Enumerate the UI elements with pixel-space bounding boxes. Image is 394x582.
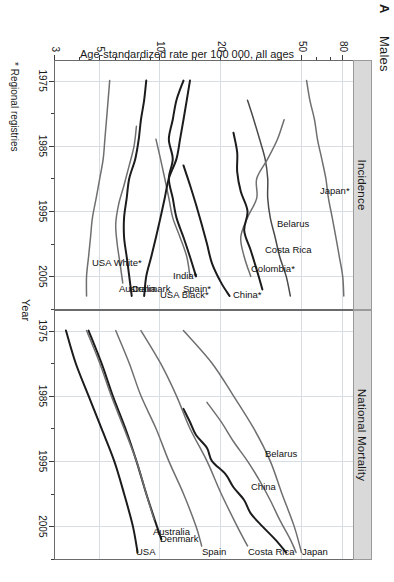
y-axis-tick-label: 50: [296, 41, 307, 52]
series-label: USA White*: [92, 257, 142, 268]
x-axis-title: Year: [20, 60, 32, 560]
series-label: Australia: [153, 526, 190, 537]
footnote: * Regional registries: [9, 62, 20, 152]
x-axis-minor-tick: [51, 178, 54, 179]
y-axis-tick: [301, 55, 302, 60]
series-label: Spain: [202, 546, 226, 557]
y-axis-minor-tick: [115, 57, 116, 60]
series-label: USA: [136, 546, 156, 557]
series-line: [144, 81, 190, 296]
y-axis-tick: [99, 55, 100, 60]
panel-plot-incidence: Japan*BelarusCosta RicaColombia*China*In…: [54, 60, 353, 310]
series-label: Costa Rica: [265, 244, 311, 255]
x-axis-tick-label: 1985: [37, 135, 48, 157]
series-label: India*: [173, 270, 197, 281]
x-axis-tick-label: 1975: [37, 69, 48, 91]
panel-national-mortality: National Mortality JapanChinaBelarusCost…: [54, 310, 372, 560]
x-axis-tick: [49, 81, 54, 82]
y-axis-tick: [160, 55, 161, 60]
x-axis-tick: [49, 146, 54, 147]
x-axis-minor-tick: [51, 113, 54, 114]
panel-strip-label: Incidence: [357, 159, 369, 210]
y-axis-minor-tick: [330, 57, 331, 60]
y-axis: Age-standardized rate per 100 000, all a…: [54, 22, 353, 60]
x-axis-tick-label: 1975: [37, 319, 48, 341]
series-line: [169, 81, 196, 277]
y-axis-minor-tick: [79, 57, 80, 60]
x-axis-tick-label: 1995: [37, 450, 48, 472]
y-axis-minor-tick: [195, 57, 196, 60]
y-axis-minor-tick: [281, 57, 282, 60]
panel-plot-mortality: JapanChinaBelarusCosta RicaSpainDenmarkA…: [54, 310, 353, 560]
series-label: Belarus: [277, 218, 309, 229]
plot-area: Incidence Japan*BelarusCosta RicaColombi…: [54, 60, 372, 560]
y-axis-tick-label: 5: [94, 46, 105, 52]
series-line: [87, 331, 155, 520]
series-label: China: [251, 481, 276, 492]
y-axis-tick: [220, 55, 221, 60]
series-lines-mortality: [55, 311, 353, 559]
y-axis-tick-label: 10: [155, 41, 166, 52]
y-axis-tick-label: 80: [337, 41, 348, 52]
x-axis-minor-tick: [51, 428, 54, 429]
y-axis-tick: [54, 55, 55, 60]
series-label: Colombia*: [251, 263, 295, 274]
panel-strip-mortality: National Mortality: [353, 310, 372, 560]
y-axis-tick-label: 3: [50, 46, 61, 52]
y-axis-minor-tick: [256, 57, 257, 60]
x-axis-minor-tick: [51, 309, 54, 310]
y-axis-tick: [342, 55, 343, 60]
x-axis-minor-tick: [51, 494, 54, 495]
x-axis-tick: [49, 461, 54, 462]
series-lines-incidence: [55, 61, 353, 309]
x-axis-minor-tick: [51, 559, 54, 560]
series-label: Costa Rica: [248, 546, 294, 557]
series-label: China*: [233, 289, 262, 300]
y-axis-minor-tick: [128, 57, 129, 60]
series-label: Japan*: [320, 185, 350, 196]
series-label: Belarus: [265, 448, 297, 459]
figure-stage: A Males Incidence Japan*BelarusCosta Ric…: [0, 0, 394, 582]
x-axis-tick: [49, 211, 54, 212]
y-axis-tick-label: 20: [216, 41, 227, 52]
y-axis-minor-tick: [316, 57, 317, 60]
x-axis-minor-tick: [51, 363, 54, 364]
panel-strip-label: National Mortality: [357, 389, 369, 481]
x-axis-tick: [49, 276, 54, 277]
x-axis-tick-label: 1995: [37, 200, 48, 222]
series-label: Australia: [119, 283, 156, 294]
x-axis-minor-tick: [51, 244, 54, 245]
x-axis-tick: [49, 396, 54, 397]
panel-strip-incidence: Incidence: [353, 60, 372, 310]
x-axis-tick: [49, 331, 54, 332]
figure-title: Males: [377, 0, 392, 582]
y-axis-minor-tick: [240, 57, 241, 60]
y-axis-minor-tick: [150, 57, 151, 60]
series-label: Japan: [302, 546, 328, 557]
x-axis-tick-label: 2005: [37, 265, 48, 287]
y-axis-minor-tick: [140, 57, 141, 60]
panel-incidence: Incidence Japan*BelarusCosta RicaColombi…: [54, 60, 372, 310]
x-axis-tick-label: 1985: [37, 385, 48, 407]
x-axis-tick-label: 2005: [37, 515, 48, 537]
x-axis-tick: [49, 526, 54, 527]
figure: A Males Incidence Japan*BelarusCosta Ric…: [0, 0, 394, 582]
